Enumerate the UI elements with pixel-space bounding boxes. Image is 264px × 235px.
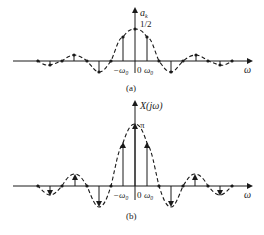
- x-label-b: ω: [244, 189, 251, 200]
- caption-b: (b): [126, 211, 137, 221]
- peak-label-a: 1/2: [140, 19, 152, 29]
- tick-neg-omega0-b: −ω0: [113, 190, 128, 201]
- tick-pos-omega0-a: ω0: [144, 65, 153, 76]
- y-label-b: X(jω): [139, 100, 163, 112]
- x-label-a: ω: [244, 64, 251, 75]
- panel-b: X(jω) π ω −ω0 0 ω0 (b): [13, 100, 251, 221]
- fourier-diagram: ak 1/2 ω −ω0 0 ω0 (a): [0, 0, 264, 235]
- caption-a: (a): [126, 83, 136, 93]
- tick-zero-a: 0: [137, 65, 142, 75]
- y-label-a: ak: [140, 7, 148, 19]
- tick-neg-omega0-a: −ω0: [113, 65, 128, 76]
- peak-label-b: π: [140, 120, 145, 130]
- panel-a: ak 1/2 ω −ω0 0 ω0 (a): [13, 7, 251, 93]
- tick-pos-omega0-b: ω0: [144, 190, 153, 201]
- tick-zero-b: 0: [137, 190, 142, 200]
